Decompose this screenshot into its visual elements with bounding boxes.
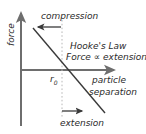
diagram-canvas: force compression Hooke's Law Force ∝ ex… bbox=[0, 0, 146, 134]
r0-label: r0 bbox=[50, 74, 58, 86]
r0-label-subscript: 0 bbox=[54, 79, 58, 86]
x-axis-label-line1: particle bbox=[91, 75, 126, 85]
hookes-law-diagram: force compression Hooke's Law Force ∝ ex… bbox=[0, 0, 146, 134]
extension-label: extension bbox=[60, 118, 104, 128]
hookes-law-title: Hooke's Law bbox=[70, 41, 127, 51]
compression-label: compression bbox=[41, 11, 99, 21]
y-axis-label: force bbox=[6, 23, 16, 46]
x-axis-label-line2: separation bbox=[89, 87, 137, 97]
hookes-law-relation: Force ∝ extension bbox=[66, 52, 146, 62]
